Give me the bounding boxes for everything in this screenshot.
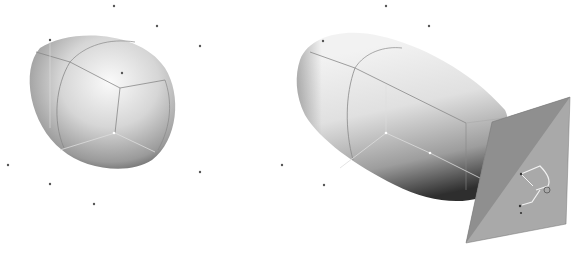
rounded-box-shape (7, 5, 201, 205)
figure-canvas (0, 0, 584, 260)
elongated-capsule-shape (281, 5, 509, 201)
